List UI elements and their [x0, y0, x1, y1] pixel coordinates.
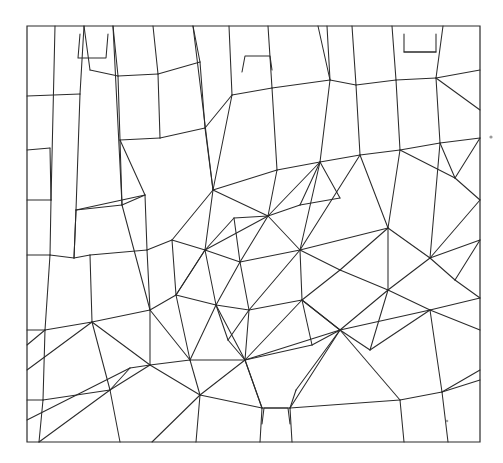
speck-right-margin: [489, 135, 492, 138]
figure-canvas: Black line drawing of a rectangular fram…: [0, 0, 503, 463]
speck-lower-right: [446, 420, 449, 423]
polygonal-subdivision-drawing: [0, 0, 503, 463]
